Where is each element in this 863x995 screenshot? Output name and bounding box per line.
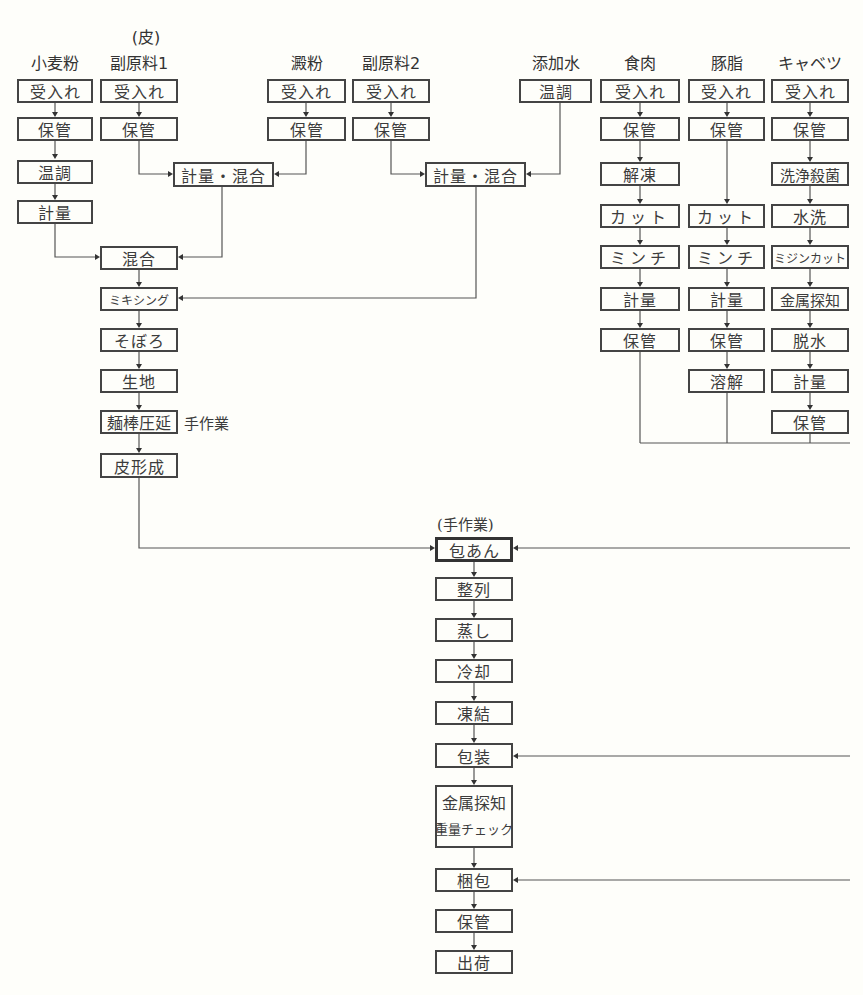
header-lard: 豚脂	[688, 50, 765, 74]
header-meat: 食肉	[600, 50, 680, 74]
step-sub1-storage: 保管	[100, 117, 178, 141]
step-lard-receive: 受入れ	[688, 79, 765, 103]
step-meat-cut: カット	[600, 204, 680, 228]
step-dough-sheet: 生地	[100, 369, 178, 393]
header-cabbage: キャベツ	[771, 50, 849, 74]
step-metal-detect-weight-check: 金属探知 重量チェック	[435, 785, 513, 848]
step-dough-mixing: ミキシング	[100, 287, 178, 311]
step-starch-receive: 受入れ	[267, 79, 346, 103]
manual-work-note-wrapping: (手作業)	[437, 513, 494, 534]
step-lard-weigh: 計量	[688, 287, 765, 311]
step-wheat-storage: 保管	[17, 117, 93, 141]
step-cabbage-storage: 保管	[771, 117, 849, 141]
step-lard-storage-2: 保管	[688, 328, 765, 352]
connector-lines	[0, 0, 863, 995]
step-sub2-receive: 受入れ	[352, 79, 430, 103]
step-dough-mix: 混合	[100, 246, 178, 270]
step-sub2-storage: 保管	[352, 117, 430, 141]
step-weigh-mix-1: 計量・混合	[173, 162, 274, 187]
step-skin-forming: 皮形成	[100, 453, 178, 478]
header-sub-material-2: 副原料2	[352, 50, 430, 74]
weight-check-label: 重量チェック	[435, 817, 513, 843]
step-cabbage-receive: 受入れ	[771, 79, 849, 103]
step-meat-storage-2: 保管	[600, 328, 680, 352]
step-freeze: 凍結	[435, 701, 513, 725]
step-starch-storage: 保管	[267, 117, 346, 141]
step-sub1-receive: 受入れ	[100, 79, 178, 103]
header-wheat-flour: 小麦粉	[17, 50, 93, 74]
step-cabbage-metal-detect: 金属探知	[771, 287, 849, 311]
step-crate-pack: 梱包	[435, 868, 513, 892]
step-ship: 出荷	[435, 950, 513, 974]
step-arrange: 整列	[435, 577, 513, 601]
step-cabbage-wash-sterilize: 洗浄殺菌	[771, 162, 849, 186]
step-final-storage: 保管	[435, 909, 513, 933]
step-lard-mince: ミンチ	[688, 245, 765, 269]
header-added-water: 添加水	[519, 50, 592, 74]
header-sub-material-1: 副原料1	[100, 50, 178, 74]
step-dough-crumble: そぼろ	[100, 328, 178, 352]
step-meat-thaw: 解凍	[600, 162, 680, 186]
step-cabbage-fine-cut: ミジンカット	[771, 245, 849, 269]
step-dough-rolling: 麺棒圧延	[100, 410, 178, 434]
step-wheat-temp: 温調	[17, 160, 93, 184]
step-meat-weigh: 計量	[600, 287, 680, 311]
step-meat-receive: 受入れ	[600, 79, 680, 103]
step-cabbage-weigh: 計量	[771, 369, 849, 393]
manual-work-note-rolling: 手作業	[184, 412, 229, 433]
metal-detect-label: 金属探知	[442, 791, 506, 817]
step-cool: 冷却	[435, 659, 513, 683]
step-wheat-receive: 受入れ	[17, 79, 93, 103]
step-lard-cut: カット	[688, 204, 765, 228]
step-lard-storage: 保管	[688, 117, 765, 141]
header-starch: 澱粉	[267, 50, 346, 74]
step-cabbage-dehydrate: 脱水	[771, 328, 849, 352]
skin-group-label: (皮)	[118, 24, 174, 48]
step-lard-melt: 溶解	[688, 369, 765, 393]
step-cabbage-storage-2: 保管	[771, 410, 849, 434]
step-weigh-mix-2: 計量・混合	[425, 162, 526, 187]
step-wrap-filling: 包あん	[435, 537, 513, 562]
step-steam: 蒸し	[435, 618, 513, 642]
step-cabbage-rinse: 水洗	[771, 204, 849, 228]
step-meat-mince: ミンチ	[600, 245, 680, 269]
step-meat-storage: 保管	[600, 117, 680, 141]
step-water-temp: 温調	[519, 79, 592, 103]
step-wheat-weigh: 計量	[17, 200, 93, 224]
step-package: 包装	[435, 743, 513, 768]
